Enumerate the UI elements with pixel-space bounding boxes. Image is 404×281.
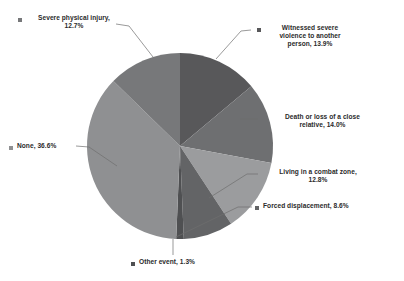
legend-marker-icon: [255, 206, 259, 210]
callout-living-in-combat-zone: Living in a combat zone, 12.8%: [262, 168, 366, 184]
callout-witnessed-severe-violence: Witnessed severe violence to another per…: [257, 24, 355, 49]
callout-label-death-or-loss: Death or loss of a close relative, 14.0%: [270, 113, 375, 129]
legend-marker-icon: [18, 18, 22, 22]
legend-marker-icon: [9, 146, 13, 150]
callout-other-event: Other event, 1.3%: [131, 258, 195, 266]
callout-label-none: None, 36.6%: [17, 142, 56, 150]
callout-label-witnessed-severe-violence: Witnessed severe violence to another per…: [265, 24, 355, 49]
pie-chart: Severe physical injury, 12.7% Witnessed …: [0, 0, 404, 281]
callout-label-other-event: Other event, 1.3%: [139, 258, 195, 266]
callout-label-severe-physical-injury: Severe physical injury, 12.7%: [26, 14, 122, 30]
callout-severe-physical-injury: Severe physical injury, 12.7%: [18, 14, 122, 30]
pie-slice-group: [87, 53, 273, 239]
callout-death-or-loss: Death or loss of a close relative, 14.0%: [262, 113, 375, 129]
legend-marker-icon: [262, 117, 266, 121]
leader-line-witnessed: [216, 30, 251, 59]
callout-label-living-in-combat-zone: Living in a combat zone, 12.8%: [270, 168, 366, 184]
callout-none: None, 36.6%: [9, 142, 56, 150]
legend-marker-icon: [262, 172, 266, 176]
callout-label-forced-displacement: Forced displacement, 8.6%: [263, 202, 349, 210]
callout-forced-displacement: Forced displacement, 8.6%: [255, 202, 349, 210]
legend-marker-icon: [257, 28, 261, 32]
legend-marker-icon: [131, 262, 135, 266]
